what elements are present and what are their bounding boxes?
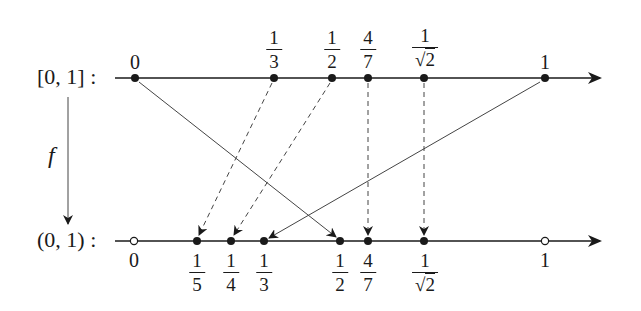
bottom-point-one-third <box>260 237 268 245</box>
mapping-third-to-fifth <box>199 83 272 235</box>
bottom-label-one-half: 1 2 <box>332 251 348 294</box>
top-axis-label: [0, 1] : <box>37 66 96 88</box>
bottom-label-one-fourth: 1 4 <box>223 251 239 294</box>
mapping-half-to-fourth <box>234 83 330 235</box>
bottom-label-one-third: 1 3 <box>256 251 272 294</box>
denominator: 7 <box>360 273 376 294</box>
numerator: 4 <box>360 251 376 272</box>
bottom-point-inv-sqrt2 <box>420 237 428 245</box>
denominator: 7 <box>360 50 376 71</box>
function-label: f <box>48 142 55 169</box>
numerator: 1 <box>324 28 340 49</box>
denominator: 3 <box>266 50 282 71</box>
bottom-point-one-fourth <box>227 237 235 245</box>
denominator: 5 <box>189 273 205 294</box>
mapping-0-to-half <box>139 82 336 237</box>
numerator: 1 <box>417 251 433 272</box>
radicand: 2 <box>425 48 435 70</box>
numerator: 1 <box>223 251 239 272</box>
top-point-inv-sqrt2 <box>420 74 428 82</box>
bottom-label-one-fifth: 1 5 <box>189 251 205 294</box>
bottom-axis-label: (0, 1) : <box>37 229 96 251</box>
bottom-point-one-fifth <box>193 237 201 245</box>
bottom-label-0: 0 <box>129 250 139 270</box>
denominator: 4 <box>223 273 239 294</box>
numerator: 1 <box>417 26 433 47</box>
numerator: 1 <box>189 251 205 272</box>
denominator: 2 <box>324 50 340 71</box>
bottom-label-four-sevenths: 4 7 <box>360 251 376 294</box>
bottom-label-inv-sqrt2: 1 √2 <box>412 251 438 294</box>
top-point-1 <box>541 74 549 82</box>
numerator: 1 <box>332 251 348 272</box>
denominator: 2 <box>332 273 348 294</box>
denominator: 3 <box>256 273 272 294</box>
bottom-point-1-open <box>541 237 548 244</box>
top-label-four-sevenths: 4 7 <box>360 28 376 71</box>
top-point-one-half <box>328 74 336 82</box>
top-label-1: 1 <box>540 52 550 72</box>
mapping-1-to-third <box>269 82 540 238</box>
radicand: 2 <box>425 273 435 295</box>
bottom-point-one-half <box>336 237 344 245</box>
top-point-0 <box>131 74 139 82</box>
top-label-inv-sqrt2: 1 √2 <box>412 26 438 69</box>
top-point-one-third <box>270 74 278 82</box>
top-label-0: 0 <box>130 52 140 72</box>
top-label-one-third: 1 3 <box>266 28 282 71</box>
top-label-one-half: 1 2 <box>324 28 340 71</box>
bottom-label-1: 1 <box>540 250 550 270</box>
sqrt-icon: √ <box>415 274 425 295</box>
numerator: 1 <box>256 251 272 272</box>
top-point-four-sevenths <box>364 74 372 82</box>
numerator: 4 <box>360 28 376 49</box>
bottom-point-four-sevenths <box>364 237 372 245</box>
sqrt-icon: √ <box>415 49 425 70</box>
bottom-point-0-open <box>130 237 137 244</box>
denominator: √2 <box>412 273 438 294</box>
denominator: √2 <box>412 48 438 69</box>
numerator: 1 <box>266 28 282 49</box>
